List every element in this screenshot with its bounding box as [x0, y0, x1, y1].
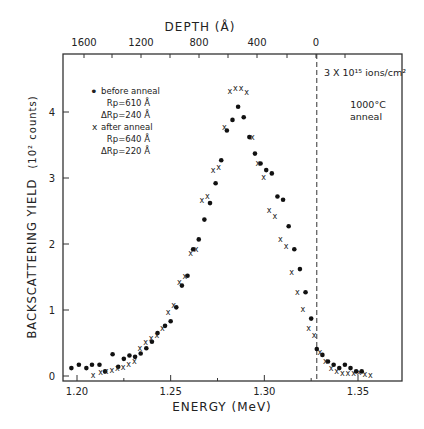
data-point-after: x	[216, 163, 221, 172]
data-point-after: x	[227, 87, 232, 96]
data-point-after: x	[211, 166, 216, 175]
legend-drp-before: ΔRp=240 Å	[101, 109, 150, 120]
legend-rp-before: Rp=610 Å	[107, 97, 150, 108]
top-tick-label: 800	[189, 37, 208, 48]
data-point-after: x	[306, 324, 311, 333]
legend-label-after: after anneal	[101, 122, 153, 132]
data-point-after: x	[239, 84, 244, 93]
y-tick-label: 3	[49, 173, 55, 184]
top-axis-title: DEPTH (Å)	[165, 19, 236, 34]
data-point-before	[275, 194, 280, 199]
data-point-after: x	[334, 367, 339, 376]
chart-figure: 1.201.251.301.3501234160012008004000 DEP…	[0, 0, 424, 429]
data-point-before	[281, 197, 286, 202]
data-point-after: x	[272, 212, 277, 221]
y-tick-label: 1	[49, 305, 55, 316]
data-point-before	[196, 237, 201, 242]
y-tick-label: 2	[49, 239, 55, 250]
data-point-after: x	[166, 308, 171, 317]
y-axis-title: BACKSCATTERING YIELD(10² counts)	[25, 95, 39, 338]
y-axis-title-main: BACKSCATTERING YIELD	[25, 179, 39, 339]
data-point-after: x	[109, 366, 114, 375]
data-point-after: x	[362, 370, 367, 379]
x-tick-label: 1.30	[253, 386, 275, 397]
data-point-after: x	[256, 159, 261, 168]
y-axis-title-units: (10² counts)	[27, 95, 38, 168]
data-point-before	[303, 290, 308, 295]
data-point-after: x	[233, 84, 238, 93]
data-point-before	[292, 247, 297, 252]
data-point-after: x	[284, 242, 289, 251]
data-point-before	[90, 362, 95, 367]
data-point-before	[213, 181, 218, 186]
dose-annotation: 3 X 10¹⁵ ions/cm²	[324, 67, 406, 78]
data-point-after: x	[194, 245, 199, 254]
data-point-before	[270, 171, 275, 176]
data-point-before	[236, 104, 241, 109]
data-point-after: x	[183, 272, 188, 281]
series-before-anneal	[69, 104, 364, 373]
data-point-before	[168, 319, 173, 324]
data-point-after: x	[261, 173, 266, 182]
data-point-before	[110, 352, 115, 357]
data-point-after: x	[368, 371, 373, 380]
data-point-before	[343, 362, 348, 367]
data-point-after: x	[317, 348, 322, 357]
temperature-annotation: 1000°C	[350, 99, 386, 110]
data-point-before	[69, 366, 74, 371]
x-tick-label: 1.20	[66, 386, 88, 397]
data-point-after: x	[329, 364, 334, 373]
data-point-after: x	[289, 268, 294, 277]
data-point-after: x	[199, 196, 204, 205]
data-point-after: x	[351, 369, 356, 378]
data-point-after: x	[323, 357, 328, 366]
data-point-after: x	[295, 288, 300, 297]
data-point-after: x	[138, 344, 143, 353]
data-point-after: x	[267, 206, 272, 215]
data-point-after: x	[160, 324, 165, 333]
data-point-after: x	[205, 192, 210, 201]
data-point-after: x	[340, 369, 345, 378]
data-point-after: x	[126, 360, 131, 369]
data-point-after: x	[171, 301, 176, 310]
data-point-after: x	[121, 363, 126, 372]
data-point-before	[77, 362, 82, 367]
data-point-after: x	[149, 334, 154, 343]
legend: • before anneal Rp=610 Å ΔRp=240 Å x aft…	[90, 84, 160, 156]
legend-marker-before: •	[90, 84, 98, 99]
data-point-after: x	[143, 338, 148, 347]
data-point-after: x	[244, 88, 249, 97]
data-point-after: x	[104, 367, 109, 376]
data-point-before	[253, 151, 258, 156]
data-point-before	[309, 316, 314, 321]
data-point-before	[84, 366, 89, 371]
x-tick-label: 1.25	[160, 386, 182, 397]
data-point-before	[298, 267, 303, 272]
top-tick-label: 0	[313, 37, 319, 48]
data-point-after: x	[98, 368, 103, 377]
data-point-after: x	[250, 133, 255, 142]
data-point-before	[97, 362, 102, 367]
x-axis-title: ENERGY (MeV)	[172, 400, 272, 414]
annotations: 3 X 10¹⁵ ions/cm² 1000°C anneal	[324, 67, 406, 122]
legend-rp-after: Rp=640 Å	[107, 133, 150, 144]
data-point-after: x	[188, 249, 193, 258]
legend-label-before: before anneal	[101, 86, 160, 96]
data-point-after: x	[222, 123, 227, 132]
y-tick-label: 4	[49, 107, 55, 118]
top-tick-label: 400	[247, 37, 266, 48]
top-tick-label: 1600	[71, 37, 96, 48]
top-tick-label: 1200	[128, 37, 153, 48]
data-point-after: x	[177, 278, 182, 287]
data-point-after: x	[115, 364, 120, 373]
data-point-after: x	[357, 368, 362, 377]
anneal-annotation: anneal	[350, 111, 382, 122]
data-point-after: x	[154, 331, 159, 340]
data-point-after: x	[132, 357, 137, 366]
data-point-before	[241, 115, 246, 120]
data-point-after: x	[301, 305, 306, 314]
data-point-after: x	[278, 235, 283, 244]
data-point-before	[230, 118, 235, 123]
legend-marker-after: x	[92, 122, 98, 132]
data-point-after: x	[312, 331, 317, 340]
